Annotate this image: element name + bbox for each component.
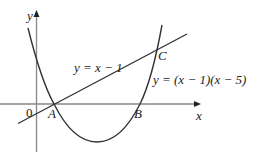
x-axis-label: x bbox=[195, 108, 202, 123]
line-equation-label: y = x − 1 bbox=[72, 60, 123, 75]
parabola-equation-label: y = (x − 1)(x − 5) bbox=[151, 72, 246, 87]
origin-label: 0 bbox=[26, 105, 33, 120]
graph-figure: y x 0 A B C y = x − 1 y = (x − 1)(x − 5) bbox=[0, 0, 262, 161]
y-axis-label: y bbox=[25, 8, 33, 23]
point-a-label: A bbox=[47, 106, 56, 121]
y-axis-arrow-icon bbox=[34, 10, 40, 17]
x-axis-arrow-icon bbox=[194, 101, 201, 107]
point-b-label: B bbox=[134, 106, 142, 121]
point-c-label: C bbox=[158, 48, 167, 63]
